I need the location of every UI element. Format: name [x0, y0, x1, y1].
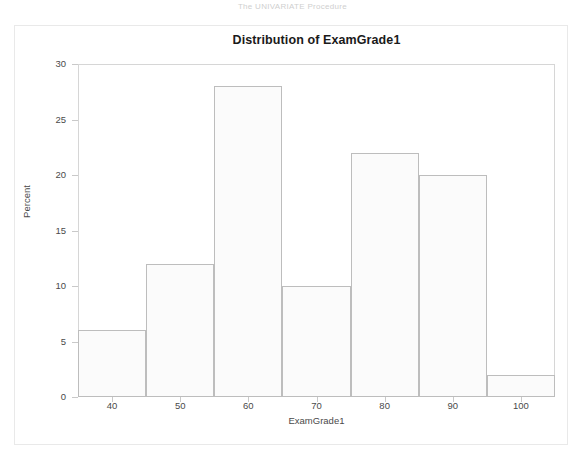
y-axis-title: Percent: [21, 174, 32, 230]
histogram-bars: [78, 64, 555, 397]
x-tick-mark: [180, 397, 181, 402]
x-tick-mark: [453, 397, 454, 402]
histogram-bar: [487, 375, 555, 397]
y-tick-label: 25: [40, 115, 66, 125]
y-tick-label: 5: [40, 337, 66, 347]
x-tick-mark: [521, 397, 522, 402]
y-tick-label: 15: [40, 226, 66, 236]
x-tick-mark: [248, 397, 249, 402]
x-axis-title: ExamGrade1: [78, 415, 555, 426]
y-tick-label: 20: [40, 170, 66, 180]
y-tick-label: 10: [40, 281, 66, 291]
histogram-bar: [146, 264, 214, 397]
histogram-bar: [351, 153, 419, 397]
histogram-bar: [214, 86, 282, 397]
page-header-text: The UNIVARIATE Procedure: [0, 0, 585, 14]
x-tick-mark: [317, 397, 318, 402]
y-tick-label: 0: [40, 392, 66, 402]
histogram-bar: [78, 330, 146, 397]
y-tick-mark: [72, 397, 78, 398]
y-tick-label: 30: [40, 59, 66, 69]
histogram-bar: [282, 286, 350, 397]
chart-title: Distribution of ExamGrade1: [78, 33, 555, 47]
histogram-bar: [419, 175, 487, 397]
x-tick-mark: [385, 397, 386, 402]
x-tick-mark: [112, 397, 113, 402]
